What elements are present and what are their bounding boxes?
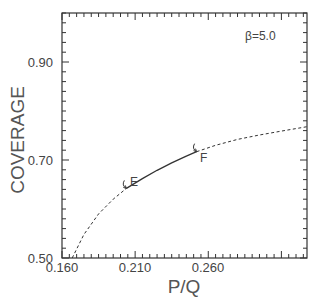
curve-2 <box>197 127 307 152</box>
axis-ticks <box>62 13 307 258</box>
y-tick-label-2: 0.90 <box>28 55 53 70</box>
marker-label-f: F <box>200 151 207 165</box>
plot-frame <box>62 13 307 258</box>
coverage-chart: 0.160 0.210 0.260 0.50 0.70 0.90 P/Q COV… <box>0 0 315 298</box>
x-tick-label-2: 0.260 <box>192 260 225 275</box>
curves <box>72 127 307 258</box>
x-axis-title: P/Q <box>168 276 201 297</box>
marker-arrow-e <box>123 180 126 188</box>
y-tick-label-1: 0.70 <box>28 153 53 168</box>
curve-0 <box>72 188 126 258</box>
y-axis-title: COVERAGE <box>7 86 28 194</box>
x-tick-label-1: 0.210 <box>119 260 152 275</box>
beta-annotation: β=5.0 <box>245 29 276 43</box>
marker-label-e: E <box>130 175 138 189</box>
y-tick-label-0: 0.50 <box>28 251 53 266</box>
marker-arrow-f <box>193 144 196 152</box>
